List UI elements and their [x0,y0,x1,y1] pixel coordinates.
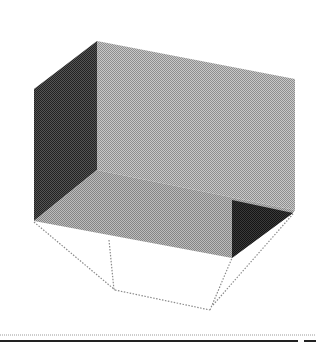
box-figure [0,0,316,342]
wireframe-edge-vertical [109,240,114,290]
wireframe-edge-right-inner [210,258,232,310]
wireframe-edge-bottom [115,290,210,310]
